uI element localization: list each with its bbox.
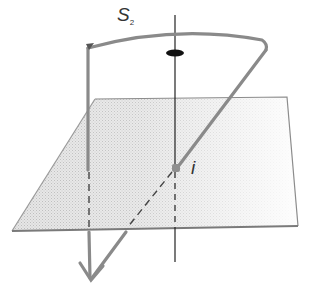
plane <box>12 97 298 231</box>
s2-label-subscript: 2 <box>130 18 134 27</box>
ellipse-marker <box>166 50 184 57</box>
downward-arrow <box>80 232 126 280</box>
point-i <box>172 164 180 172</box>
s2-label-main: S <box>117 4 130 25</box>
s2-label: S2 <box>117 4 134 27</box>
point-i-label: i <box>191 157 195 179</box>
diagram-canvas <box>0 0 309 292</box>
